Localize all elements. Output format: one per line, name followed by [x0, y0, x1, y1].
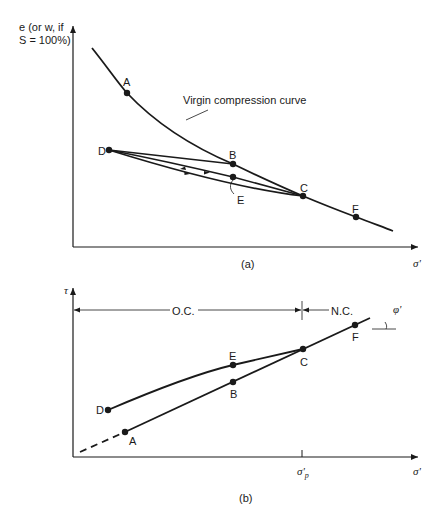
y-axis-label-a-line2: S = 100%)	[19, 34, 71, 46]
label-a: A	[123, 76, 130, 88]
label-f: F	[352, 203, 359, 215]
region-dimension-lines	[74, 301, 329, 320]
caption-a: (a)	[241, 258, 254, 270]
point-e	[230, 174, 236, 180]
phi-angle-icon	[372, 322, 396, 329]
oc-failure-envelope	[108, 349, 303, 410]
region-oc-label: O.C.	[172, 305, 195, 317]
y-axis-label-b: τ	[64, 284, 68, 296]
angle-label: φ'	[393, 303, 401, 315]
label-e-b: E	[229, 350, 236, 362]
d-to-b-path	[109, 150, 233, 164]
label-a-b: A	[129, 435, 136, 447]
curve-annotation-leader	[186, 110, 208, 120]
envelope-dashed-extension	[80, 432, 125, 452]
point-c-b	[300, 346, 306, 352]
point-e-b	[230, 362, 236, 368]
label-c: C	[300, 182, 308, 194]
point-d	[106, 147, 112, 153]
point-b	[230, 161, 236, 167]
label-d: D	[98, 145, 106, 157]
label-d-b: D	[96, 404, 104, 416]
y-axis-label-a-line1: e (or w, if	[19, 21, 64, 33]
label-c-b: C	[300, 356, 308, 368]
panel-a-axes	[73, 26, 418, 247]
point-a-b	[122, 429, 128, 435]
panel-b-points	[105, 322, 358, 435]
region-nc-label: N.C.	[331, 305, 353, 317]
nc-failure-envelope	[125, 318, 370, 432]
consolidation-diagram	[0, 0, 447, 517]
label-f-b: F	[352, 331, 359, 343]
virgin-curve-label: Virgin compression curve	[183, 94, 306, 106]
unload-arrow-icon	[180, 167, 186, 171]
x-axis-label-b: σ'	[413, 465, 421, 477]
point-f-b	[352, 322, 358, 328]
point-d-b	[105, 407, 111, 413]
e-leader	[230, 180, 234, 194]
preconsolidation-tick-label: σ'p	[297, 465, 309, 482]
x-axis-label-a: σ'	[413, 257, 421, 269]
label-b: B	[229, 149, 236, 161]
caption-b: (b)	[239, 492, 252, 504]
label-e: E	[237, 194, 244, 206]
point-a	[124, 90, 130, 96]
point-b-b	[230, 379, 236, 385]
label-b-b: B	[230, 388, 237, 400]
